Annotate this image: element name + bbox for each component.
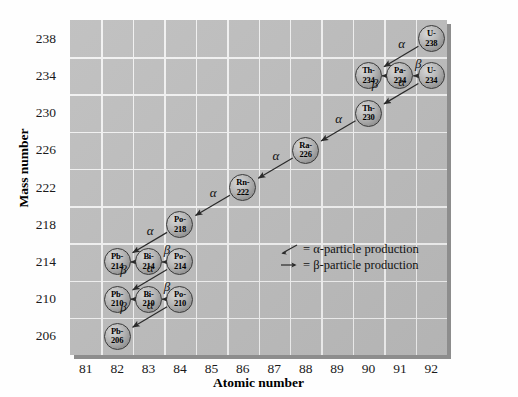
nuclide-mass-label: 226 bbox=[300, 150, 312, 160]
y-tick-label: 230 bbox=[16, 105, 56, 121]
nuclide-mass-label: 210 bbox=[174, 299, 186, 309]
decay-label-beta: β bbox=[120, 299, 126, 315]
y-tick-label: 210 bbox=[16, 291, 56, 307]
beta-arrow-icon bbox=[278, 258, 300, 272]
plot-area: U-238Th-234Pa-234U-234Th-230Ra-226Rn-222… bbox=[70, 20, 447, 355]
decay-label-alpha: α bbox=[272, 148, 279, 164]
x-axis-title: Atomic number bbox=[70, 375, 447, 391]
alpha-arrow-icon bbox=[278, 242, 300, 256]
decay-label-alpha: α bbox=[398, 36, 405, 52]
nuclide-node-u-238: U-238 bbox=[418, 25, 445, 52]
y-tick-label: 234 bbox=[16, 68, 56, 84]
nuclide-mass-label: 222 bbox=[237, 188, 249, 198]
nuclide-node-po-210: Po-210 bbox=[166, 286, 193, 313]
y-tick-label: 214 bbox=[16, 254, 56, 270]
decay-label-alpha: α bbox=[210, 185, 217, 201]
y-tick-label: 238 bbox=[16, 31, 56, 47]
nuclide-node-ra-226: Ra-226 bbox=[292, 137, 319, 164]
decay-label-alpha: α bbox=[147, 297, 154, 313]
legend-label-alpha: = α-particle production bbox=[303, 242, 419, 257]
nuclide-mass-label: 230 bbox=[362, 113, 374, 123]
nuclide-mass-label: 218 bbox=[174, 225, 186, 235]
nuclide-mass-label: 214 bbox=[174, 262, 186, 272]
decay-label-beta: β bbox=[372, 76, 378, 92]
legend-label-beta: = β-particle production bbox=[303, 258, 418, 273]
y-tick-label: 206 bbox=[16, 328, 56, 344]
y-tick-label: 222 bbox=[16, 180, 56, 196]
nuclide-mass-label: 206 bbox=[111, 336, 123, 346]
legend: = α-particle production = β-particle pro… bbox=[278, 241, 419, 273]
decay-label-alpha: α bbox=[398, 74, 405, 90]
decay-label-alpha: α bbox=[147, 260, 154, 276]
x-tick-label: 92 bbox=[411, 361, 451, 377]
nuclide-mass-label: 234 bbox=[425, 76, 437, 86]
legend-row-alpha: = α-particle production bbox=[278, 241, 419, 257]
decay-label-beta: β bbox=[164, 279, 170, 295]
decay-label-beta: β bbox=[415, 56, 421, 72]
decay-label-beta: β bbox=[120, 262, 126, 278]
y-axis-title: Mass number bbox=[16, 113, 32, 223]
legend-row-beta: = β-particle production bbox=[278, 257, 419, 273]
decay-label-alpha: α bbox=[335, 111, 342, 127]
nuclide-node-th-230: Th-230 bbox=[355, 100, 382, 127]
y-tick-label: 226 bbox=[16, 142, 56, 158]
decay-series-chart: U-238Th-234Pa-234U-234Th-230Ra-226Rn-222… bbox=[0, 0, 518, 397]
y-tick-label: 218 bbox=[16, 217, 56, 233]
nuclide-mass-label: 238 bbox=[425, 39, 437, 49]
decay-label-beta: β bbox=[164, 242, 170, 258]
decay-label-alpha: α bbox=[147, 223, 154, 239]
nuclide-node-pb-206: Pb-206 bbox=[104, 323, 131, 350]
